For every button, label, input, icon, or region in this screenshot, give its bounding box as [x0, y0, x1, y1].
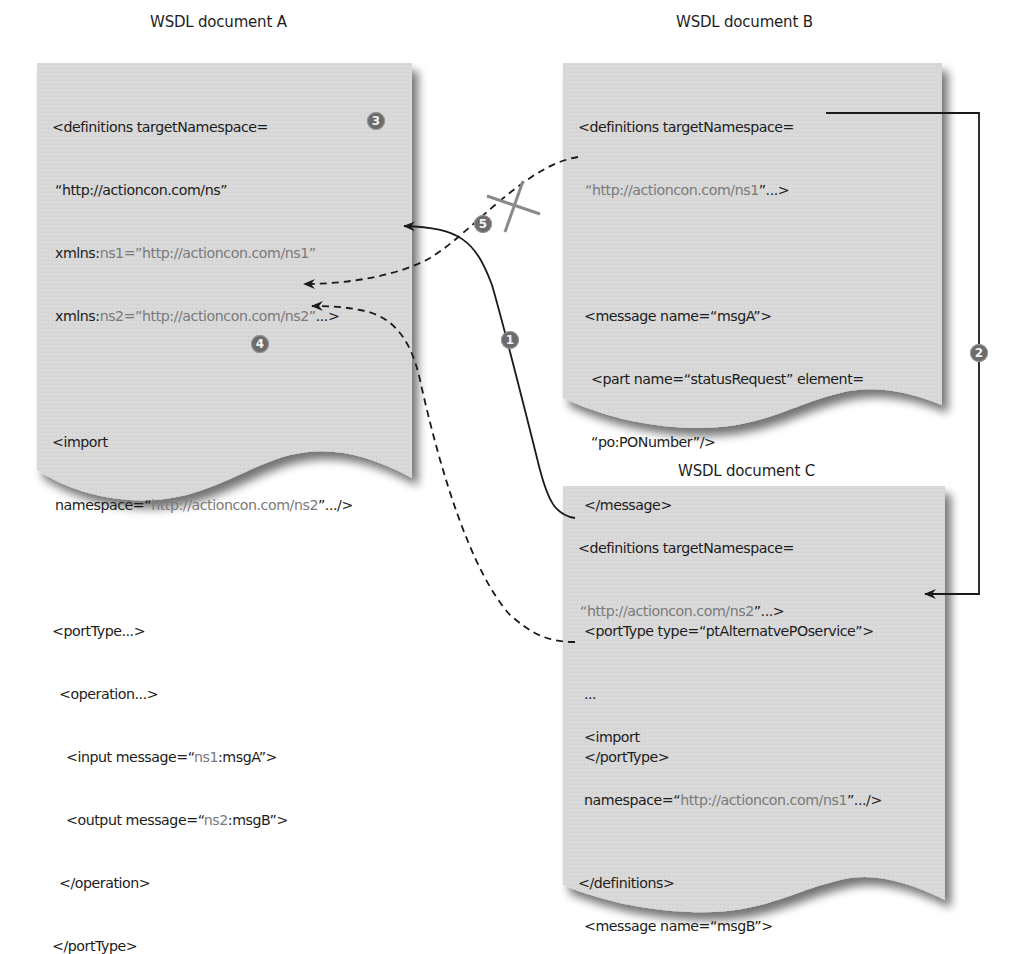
namespace-value: http://actioncon.com/ns1	[680, 792, 847, 808]
code-line: namespace=“http://actioncon.com/ns2”.../…	[52, 495, 353, 516]
code-line: xmlns:ns1=”http://actioncon.com/ns1”	[52, 243, 353, 264]
callout-badge-1: 1	[501, 331, 519, 349]
code-line: </operation>	[52, 873, 353, 894]
code-line: “http://actioncon.com/ns”	[52, 180, 353, 201]
namespace-value: ns1=”http://actioncon.com/ns1”	[100, 245, 316, 261]
namespace-value: http://actioncon.com/ns2	[587, 603, 754, 619]
code-line: <input message=“ns1:msgA”>	[52, 747, 353, 768]
code-line: <part name=“statusRequest” element=	[578, 369, 874, 390]
code-line: “http://actioncon.com/ns1”...>	[578, 180, 874, 201]
code-line: “http://actioncon.com/ns2”...>	[578, 601, 882, 622]
code-line: <import	[52, 432, 353, 453]
code-line: <definitions targetNamespace=	[578, 117, 874, 138]
code-line: <import	[578, 727, 882, 748]
namespace-value: http://actioncon.com/ns2	[151, 497, 318, 513]
callout-badge-4: 4	[251, 335, 269, 353]
callout-badge-5: 5	[474, 215, 492, 233]
namespace-value: http://actioncon.com/ns1	[592, 182, 759, 198]
document-c-code: <definitions targetNamespace= “http://ac…	[578, 496, 882, 954]
code-line: <message name=“msgB”>	[578, 916, 882, 937]
code-line: <portType...>	[52, 621, 353, 642]
code-line: <operation...>	[52, 684, 353, 705]
document-a-title: WSDL document A	[150, 13, 287, 31]
code-line: “po:PONumber”/>	[578, 432, 874, 453]
code-line: <definitions targetNamespace=	[578, 538, 882, 559]
callout-badge-3: 3	[367, 112, 385, 130]
namespace-value: ns1	[194, 749, 218, 765]
code-line: </portType>	[52, 936, 353, 954]
code-line: xmlns:ns2=”http://actioncon.com/ns2”...>	[52, 306, 353, 327]
code-line: <message name=“msgA”>	[578, 306, 874, 327]
code-line: <definitions targetNamespace=	[52, 117, 353, 138]
namespace-value: ns2=”http://actioncon.com/ns2”	[100, 308, 316, 324]
callout-badge-2: 2	[970, 344, 988, 362]
document-b-title: WSDL document B	[676, 13, 813, 31]
code-line: <output message=“ns2:msgB”>	[52, 810, 353, 831]
document-c-title: WSDL document C	[678, 462, 815, 480]
code-line: namespace=“http://actioncon.com/ns1”.../…	[578, 790, 882, 811]
namespace-value: ns2	[204, 812, 228, 828]
document-a-code: <definitions targetNamespace= “http://ac…	[52, 75, 353, 954]
